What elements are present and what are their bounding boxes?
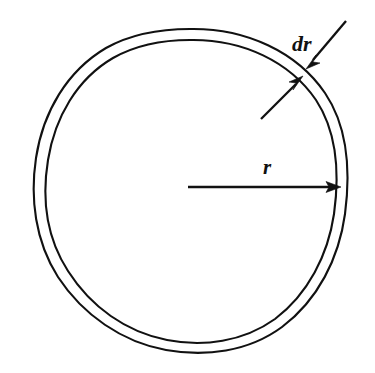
figure-container: r dr xyxy=(0,0,375,373)
radius-label: r xyxy=(263,155,272,179)
thickness-label: dr xyxy=(292,31,312,56)
annulus-diagram: r dr xyxy=(0,0,375,373)
